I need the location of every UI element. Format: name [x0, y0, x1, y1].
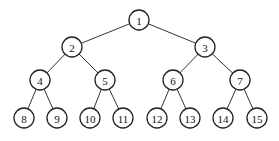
- tree-node-12: 12: [147, 108, 167, 128]
- edges: [24, 20, 257, 118]
- node-label: 7: [237, 75, 243, 87]
- tree-node-6: 6: [163, 70, 183, 90]
- tree-node-7: 7: [230, 70, 250, 90]
- node-label: 11: [118, 113, 129, 125]
- node-label: 8: [21, 113, 27, 125]
- node-label: 3: [202, 42, 208, 54]
- tree-node-15: 15: [247, 108, 267, 128]
- tree-node-13: 13: [180, 108, 200, 128]
- tree-node-11: 11: [113, 108, 133, 128]
- tree-node-14: 14: [213, 108, 233, 128]
- node-label: 12: [152, 113, 163, 125]
- node-label: 15: [252, 113, 264, 125]
- node-label: 14: [218, 113, 230, 125]
- tree-node-9: 9: [47, 108, 67, 128]
- node-label: 4: [37, 75, 43, 87]
- node-label: 2: [69, 42, 75, 54]
- binary-tree-diagram: 123456789101112131415: [0, 0, 279, 141]
- tree-node-1: 1: [129, 10, 149, 30]
- edge-1-2: [72, 20, 139, 47]
- tree-node-3: 3: [195, 37, 215, 57]
- tree-node-8: 8: [14, 108, 34, 128]
- tree-node-4: 4: [30, 70, 50, 90]
- node-label: 9: [54, 113, 60, 125]
- node-label: 5: [102, 75, 108, 87]
- node-label: 10: [85, 113, 97, 125]
- tree-node-5: 5: [95, 70, 115, 90]
- edge-1-3: [139, 20, 205, 47]
- node-label: 13: [185, 113, 197, 125]
- tree-node-10: 10: [80, 108, 100, 128]
- tree-node-2: 2: [62, 37, 82, 57]
- node-label: 1: [136, 15, 142, 27]
- node-label: 6: [170, 75, 176, 87]
